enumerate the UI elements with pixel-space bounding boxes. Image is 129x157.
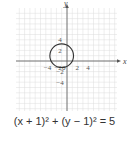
y-tick-label: 4 (58, 36, 62, 44)
equation-caption: (x + 1)² + (y − 1)² = 5 (0, 115, 129, 127)
y-tick-label: 2 (58, 47, 62, 55)
x-axis-arrow-icon (117, 59, 121, 63)
y-tick-label: −2 (56, 68, 64, 76)
x-tick-label: 2 (76, 64, 80, 72)
y-axis-label: y (63, 0, 68, 8)
y-tick-label: −4 (56, 79, 64, 87)
x-axis-label: x (122, 57, 127, 66)
x-tick-label: 4 (86, 64, 90, 72)
x-tick-label: −4 (44, 64, 52, 72)
graph: xy−4−202442−2−4 (0, 0, 129, 157)
